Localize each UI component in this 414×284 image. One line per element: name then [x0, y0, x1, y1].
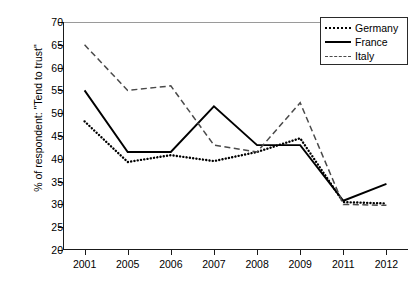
series-line-germany [85, 121, 387, 203]
series-line-france [85, 90, 387, 200]
line-chart: % of respondent: "Tend to trust" 2025303… [0, 0, 414, 284]
legend-item-france: France [321, 35, 407, 49]
legend-item-germany: Germany [321, 21, 407, 35]
legend-label: Germany [355, 22, 398, 34]
dotted-line-key [325, 27, 351, 29]
solid-line-key [325, 41, 351, 43]
legend-label: Italy [355, 50, 374, 62]
legend-label: France [355, 36, 388, 48]
legend: Germany France Italy [320, 17, 408, 65]
legend-item-italy: Italy [321, 49, 407, 63]
dashed-line-key [325, 56, 351, 57]
